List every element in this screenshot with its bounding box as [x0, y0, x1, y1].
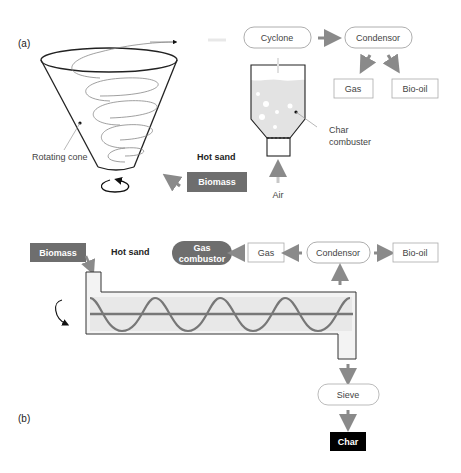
air-label: Air [273, 190, 284, 200]
condensor-label-a: Condensor [356, 33, 400, 43]
screw-reactor [56, 272, 356, 359]
biomass-label-a: Biomass [198, 177, 236, 187]
char-label: Char [338, 437, 359, 447]
hot-sand-label-b: Hot sand [111, 247, 150, 257]
biomass-arrow-b [86, 256, 91, 268]
biooil-label-b: Bio-oil [402, 248, 427, 258]
panel-b-label: (b) [18, 413, 30, 424]
panel-a-label: (a) [18, 38, 30, 49]
char-combuster-vessel [251, 58, 317, 156]
biomass-label-b: Biomass [39, 248, 77, 258]
condensor-label-b: Condensor [316, 248, 360, 258]
condensor-to-biooil-arrow-a [388, 55, 395, 66]
char-combuster-label-2: combuster [329, 137, 371, 147]
biooil-label-a: Bio-oil [402, 84, 427, 94]
rotating-cone [41, 42, 177, 192]
gas-combustor-label-2: combustor [179, 254, 226, 264]
rotating-cone-label: Rotating cone [32, 152, 88, 162]
hot-sand-label-a: Hot sand [197, 152, 236, 162]
cyclone-label: Cyclone [261, 33, 294, 43]
sieve-label: Sieve [337, 390, 360, 400]
char-combuster-label-1: Char [329, 125, 349, 135]
condensor-to-gas-arrow-a [364, 55, 370, 66]
gas-label-b: Gas [258, 248, 275, 258]
biomass-arrow-a [170, 179, 180, 186]
gas-combustor-label-1: Gas [193, 243, 210, 253]
gas-label-a: Gas [345, 84, 362, 94]
pyrolysis-diagram: (a) Rotating cone Hot sand Biomass Cyclo… [0, 0, 461, 473]
